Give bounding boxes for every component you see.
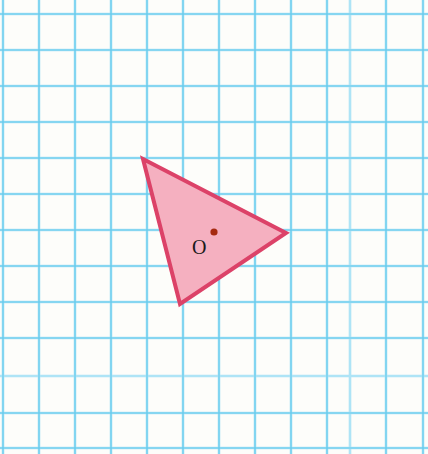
- center-point-label: O: [192, 237, 206, 257]
- geometry-figure-canvas: g O: [0, 0, 428, 454]
- center-point-dot: [210, 228, 217, 235]
- grid-and-shape-svg: [0, 0, 428, 454]
